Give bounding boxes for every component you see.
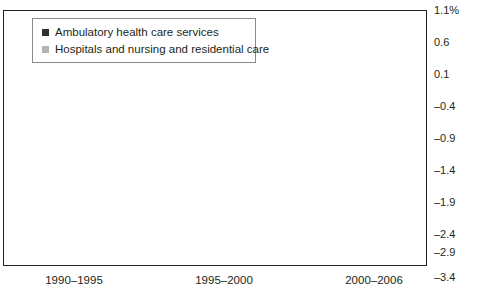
legend-label-hospitals: Hospitals and nursing and residential ca… <box>55 43 269 56</box>
legend-item-ambulatory: Ambulatory health care services <box>42 24 255 41</box>
light-square-swatch-icon <box>42 46 49 53</box>
chart-title-clipped <box>4 0 424 3</box>
ytick-label-9: –3.4 <box>434 272 488 283</box>
bar-chart: 1.1% 0.6 0.1 –0.4 –0.9 –1.4 –1.9 –2.4 –2… <box>0 0 491 294</box>
ytick-label-7: –2.4 <box>434 229 488 240</box>
ytick-label-1: 0.6 <box>434 37 488 48</box>
chart-legend: Ambulatory health care services Hospital… <box>32 18 256 63</box>
ytick-label-6: –1.9 <box>434 197 488 208</box>
legend-item-hospitals: Hospitals and nursing and residential ca… <box>42 41 255 58</box>
xtick-label-2000-2006: 2000–2006 <box>314 274 434 287</box>
ytick-label-3: –0.4 <box>434 101 488 112</box>
ytick-label-2: 0.1 <box>434 69 488 80</box>
legend-label-ambulatory: Ambulatory health care services <box>55 26 219 39</box>
dark-square-swatch-icon <box>42 29 49 36</box>
ytick-label-8: –2.9 <box>434 247 488 258</box>
ytick-label-4: –0.9 <box>434 133 488 144</box>
ytick-label-0: 1.1% <box>434 5 488 16</box>
xtick-label-1990-1995: 1990–1995 <box>14 274 134 287</box>
ytick-label-5: –1.4 <box>434 165 488 176</box>
xtick-label-1995-2000: 1995–2000 <box>164 274 284 287</box>
